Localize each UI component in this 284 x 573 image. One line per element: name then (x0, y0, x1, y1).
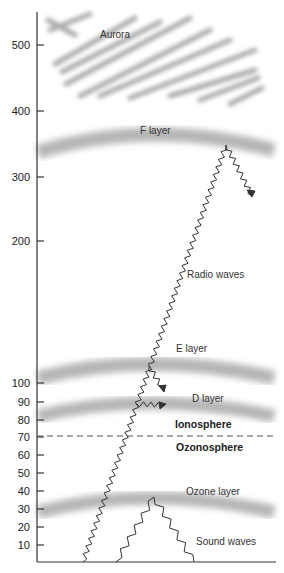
axis-tick-label: 100 (0, 377, 30, 389)
aurora-label: Aurora (100, 29, 130, 40)
axis-tick-label: 400 (0, 105, 30, 117)
sound-waves-label: Sound waves (196, 536, 256, 547)
axis-tick-label: 80 (0, 414, 30, 426)
aurora-streaks (48, 14, 262, 104)
axis-ticks (37, 45, 44, 545)
radio-waves-label: Radio waves (187, 269, 244, 280)
axis-tick-label: 20 (0, 521, 30, 533)
ozone-layer-label: Ozone layer (186, 486, 240, 497)
axis-tick-label: 30 (0, 503, 30, 515)
axis-tick-label: 50 (0, 467, 30, 479)
axis-tick-label: 300 (0, 171, 30, 183)
sound-wave-path (116, 497, 194, 562)
e-layer-band (38, 364, 274, 378)
f-layer-label: F layer (140, 125, 171, 136)
axis-tick-label: 200 (0, 235, 30, 247)
f-layer-band (38, 134, 274, 152)
d-layer-label: D layer (192, 393, 224, 404)
axis-tick-label: 70 (0, 431, 30, 443)
e-layer-label: E layer (176, 343, 207, 354)
ozonosphere-label: Ozonosphere (176, 441, 243, 453)
arrow-head-icon (159, 385, 166, 392)
axis-tick-label: 10 (0, 539, 30, 551)
axis-tick-label: 60 (0, 449, 30, 461)
atmosphere-layers-diagram (0, 0, 284, 573)
axis-tick-label: 500 (0, 39, 30, 51)
axis-tick-label: 90 (0, 396, 30, 408)
axis-tick-label: 40 (0, 485, 30, 497)
ionosphere-label: Ionosphere (175, 418, 232, 430)
